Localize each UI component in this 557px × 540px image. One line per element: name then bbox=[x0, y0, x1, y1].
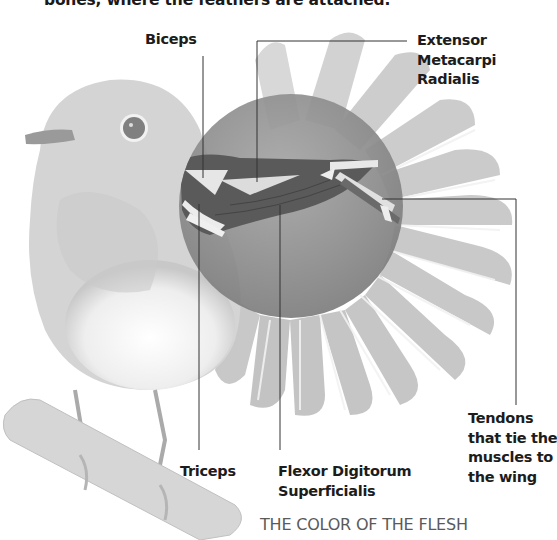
label-flexor-digitorum-superficialis: Flexor Digitorum Superficialis bbox=[278, 462, 411, 501]
label-tendons: Tendons that tie the muscles to the wing bbox=[468, 409, 557, 487]
section-heading: THE COLOR OF THE FLESH bbox=[260, 515, 468, 534]
label-biceps: Biceps bbox=[145, 30, 197, 50]
label-extensor-metacarpi-radialis: Extensor Metacarpi Radialis bbox=[417, 31, 496, 90]
label-triceps: Triceps bbox=[180, 462, 236, 482]
magnifier-lens bbox=[179, 94, 403, 318]
